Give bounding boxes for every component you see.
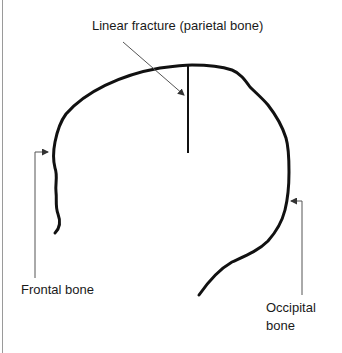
fracture-leader-arrow — [123, 42, 184, 95]
skull-outline — [54, 65, 290, 295]
occipital-label-line1: Occipital — [266, 299, 316, 317]
frontal-leader-arrow — [35, 152, 48, 278]
occipital-bone-label: Occipital bone — [266, 299, 316, 335]
fracture-label: Linear fracture (parietal bone) — [92, 17, 263, 35]
frontal-bone-label: Frontal bone — [21, 281, 94, 299]
occipital-leader-arrow — [291, 201, 302, 295]
occipital-label-line2: bone — [266, 317, 316, 335]
